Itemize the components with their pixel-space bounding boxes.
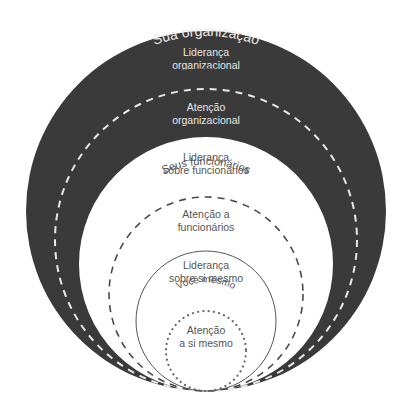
org-attention-line2: organizacional [172, 114, 240, 126]
org-leadership-line1: Liderança [183, 46, 229, 58]
emp-attention-line1: Atenção a [182, 208, 229, 220]
self-leadership-line1: Liderança [183, 259, 229, 271]
org-attention-line1: Atenção [187, 101, 226, 113]
self-attention-line1: Atenção [187, 324, 226, 336]
nested-circles-diagram: Liderança organizacional Sua organização… [0, 0, 405, 410]
emp-attention-line2: funcionários [178, 221, 235, 233]
self-attention-line2: a si mesmo [179, 337, 233, 349]
